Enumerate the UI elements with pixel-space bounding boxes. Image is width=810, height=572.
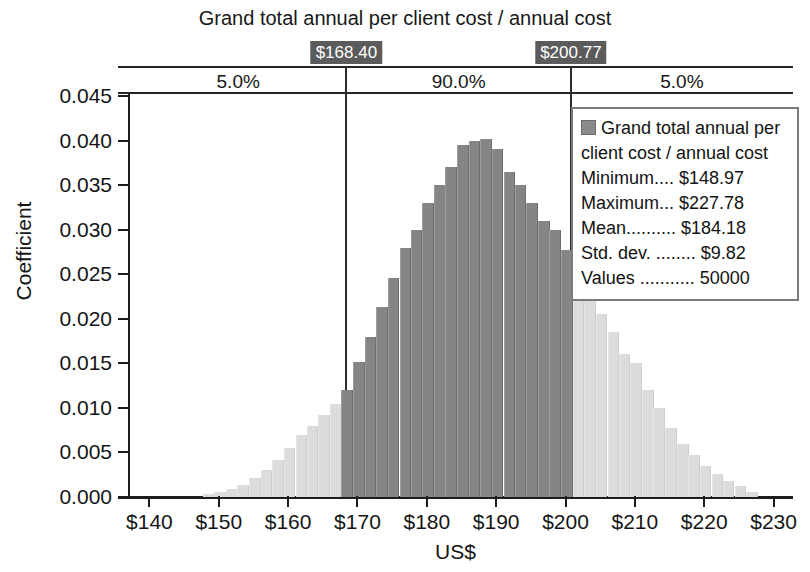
legend-stat-row: Maximum... $227.78 xyxy=(581,191,789,216)
x-axis-tick xyxy=(495,496,497,507)
x-axis-tick-label: $160 xyxy=(265,510,312,534)
x-axis-tick-label: $210 xyxy=(612,510,659,534)
histogram-bar xyxy=(642,390,654,497)
histogram-bar xyxy=(608,332,620,497)
y-axis-tick-label: 0.045 xyxy=(0,85,112,106)
histogram-bar xyxy=(422,203,434,497)
histogram-bar xyxy=(549,230,561,497)
y-axis-tick-label: 0.000 xyxy=(0,486,112,507)
histogram-bar xyxy=(318,415,330,497)
x-axis-tick-label: $200 xyxy=(542,510,589,534)
y-axis-tick-label: 0.005 xyxy=(0,441,112,462)
histogram-bar xyxy=(330,404,342,497)
x-axis-tick-label: $140 xyxy=(126,510,173,534)
y-axis-tick xyxy=(118,140,130,142)
histogram-bar xyxy=(445,167,457,497)
y-axis-tick xyxy=(118,451,130,453)
histogram-bar xyxy=(573,267,585,497)
percentile-band-label: 5.0% xyxy=(130,68,346,94)
histogram-bar xyxy=(203,494,215,497)
legend-stat-row: Values ........... 50000 xyxy=(581,266,789,291)
histogram-bar xyxy=(261,470,273,497)
legend-stat-row: Mean.......... $184.18 xyxy=(581,216,789,241)
histogram-bar xyxy=(619,354,631,497)
histogram-bar xyxy=(688,455,700,497)
x-axis-tick-label: $230 xyxy=(750,510,797,534)
histogram-bar xyxy=(515,185,527,497)
histogram-bar xyxy=(376,307,388,497)
histogram-bar xyxy=(700,466,712,497)
x-axis-tick-label: $170 xyxy=(334,510,381,534)
histogram-bar xyxy=(538,221,550,497)
x-axis-tick xyxy=(565,496,567,507)
histogram-bar xyxy=(434,185,446,497)
legend-stat-row: Std. dev. ........ $9.82 xyxy=(581,241,789,266)
y-axis-tick xyxy=(118,496,130,498)
x-axis-title: US$ xyxy=(118,540,793,564)
x-axis-tick-label: $190 xyxy=(473,510,520,534)
x-axis-tick xyxy=(634,496,636,507)
y-axis-tick xyxy=(118,318,130,320)
x-axis-tick-label: $180 xyxy=(403,510,450,534)
histogram-bar xyxy=(272,460,284,497)
percentile-band-label: 5.0% xyxy=(571,68,793,94)
y-axis-tick xyxy=(118,184,130,186)
histogram-bar xyxy=(504,172,516,497)
histogram-bar xyxy=(677,444,689,497)
histogram-bar xyxy=(492,149,504,497)
y-axis-tick xyxy=(118,229,130,231)
x-axis-tick xyxy=(287,496,289,507)
histogram-bar xyxy=(746,492,758,497)
legend-color-swatch-icon xyxy=(581,120,596,135)
histogram-bar xyxy=(237,485,249,497)
percentile-band-label: 90.0% xyxy=(346,68,570,94)
forecast-histogram-chart: Grand total annual per client cost / ann… xyxy=(0,0,810,572)
legend-series-label: Grand total annual per client cost / ann… xyxy=(581,118,780,163)
histogram-bar xyxy=(712,474,724,497)
x-axis-tick xyxy=(773,496,775,507)
histogram-bar xyxy=(469,141,481,497)
y-axis-tick xyxy=(118,95,130,97)
legend-series-row: Grand total annual per client cost / ann… xyxy=(581,116,789,166)
histogram-bar xyxy=(400,248,412,498)
percentile-band: 5.0%90.0%5.0% xyxy=(118,66,793,94)
histogram-bar xyxy=(249,478,261,497)
percentile-value-flag[interactable]: $168.40 xyxy=(311,41,382,64)
y-axis-tick xyxy=(118,273,130,275)
histogram-bar xyxy=(653,408,665,497)
x-axis-tick-label: $220 xyxy=(681,510,728,534)
histogram-bar xyxy=(735,486,747,497)
histogram-bar xyxy=(665,428,677,498)
histogram-bar xyxy=(411,230,423,497)
histogram-bar xyxy=(457,145,469,497)
histogram-bar xyxy=(214,492,226,497)
x-axis-tick-label: $150 xyxy=(195,510,242,534)
chart-title: Grand total annual per client cost / ann… xyxy=(0,6,810,30)
histogram-bar xyxy=(353,362,365,497)
histogram-bar xyxy=(284,448,296,497)
histogram-bar xyxy=(526,203,538,497)
y-axis-title: Coefficient xyxy=(13,131,35,371)
x-axis-tick xyxy=(703,496,705,507)
y-axis-tick xyxy=(118,407,130,409)
histogram-bar xyxy=(584,292,596,497)
histogram-bar xyxy=(596,314,608,497)
x-axis-tick xyxy=(148,496,150,507)
legend-stat-row: Minimum.... $148.97 xyxy=(581,166,789,191)
histogram-bar xyxy=(630,363,642,497)
histogram-bar xyxy=(480,139,492,497)
histogram-bar xyxy=(341,390,353,497)
x-axis-tick xyxy=(218,496,220,507)
histogram-bar xyxy=(723,481,735,497)
y-axis-tick xyxy=(118,362,130,364)
percentile-value-flag[interactable]: $200.77 xyxy=(535,41,606,64)
histogram-bar xyxy=(365,337,377,497)
histogram-bar xyxy=(296,435,308,497)
histogram-bar xyxy=(388,278,400,497)
legend-box: Grand total annual per client cost / ann… xyxy=(571,107,799,301)
x-axis-tick xyxy=(426,496,428,507)
legend-statistics: Minimum.... $148.97Maximum... $227.78Mea… xyxy=(581,166,789,291)
histogram-bar xyxy=(307,426,319,497)
y-axis-tick-label: 0.010 xyxy=(0,397,112,418)
histogram-bar xyxy=(226,489,238,497)
